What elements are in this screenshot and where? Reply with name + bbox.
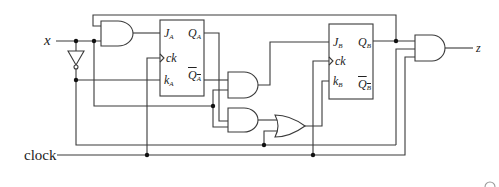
- wire-clock-ckb: [313, 61, 329, 155]
- junction-dot: [74, 39, 78, 43]
- and-gate-2: [228, 72, 258, 98]
- and-gate-1: [101, 21, 133, 46]
- wire-x-and3: [213, 106, 228, 127]
- ffb-qbar-pin: QB: [358, 78, 371, 92]
- circuit-diagram: [0, 0, 499, 187]
- wire-xbar-or: [264, 131, 278, 145]
- or-gate: [275, 115, 305, 137]
- ffb-k-pin: kB: [333, 75, 343, 89]
- junction-dot: [311, 153, 315, 157]
- ffa-k-pin: kA: [164, 74, 174, 88]
- wire-qa: [204, 33, 228, 121]
- ffb-q-pin: QB: [358, 36, 371, 50]
- wire-and2-jb: [258, 42, 329, 85]
- ffb-j-pin: JB: [333, 36, 343, 50]
- not-gate: [68, 51, 84, 65]
- wire-x-and2: [213, 90, 228, 106]
- ffa-ck-pin: ck: [166, 52, 177, 64]
- corner-artifact-icon: [485, 182, 495, 187]
- input-clock-label: clock: [24, 148, 56, 163]
- junction-dot: [74, 78, 78, 82]
- junction-dot: [145, 153, 149, 157]
- ffb-ck-pin: ck: [335, 55, 346, 67]
- and-gate-3: [228, 108, 258, 132]
- ffa-qbar-pin: QA: [188, 69, 201, 83]
- and-gate-output: [415, 35, 445, 61]
- ffa-j-pin: JA: [164, 27, 174, 41]
- output-z-label: z: [476, 42, 481, 54]
- junction-dot: [92, 39, 96, 43]
- junction-dot: [262, 143, 266, 147]
- junction-dot: [394, 39, 398, 43]
- wire-or-kb: [305, 81, 329, 126]
- inverter-bubble: [74, 65, 78, 69]
- input-x-label: x: [44, 33, 51, 48]
- ffa-q-pin: QA: [188, 27, 201, 41]
- junction-dot: [211, 104, 215, 108]
